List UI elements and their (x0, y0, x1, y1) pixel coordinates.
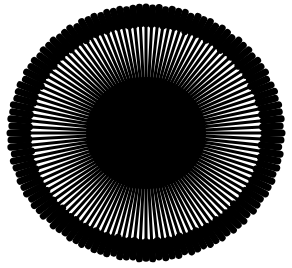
radial-bar-tip (11, 145, 29, 147)
radial-bar-tip (261, 105, 279, 109)
radial-bar-tip (133, 241, 135, 257)
radial-bar-tip (11, 139, 29, 140)
radial-bar-tip (157, 241, 159, 257)
radial-bar-tip (113, 11, 117, 27)
radial-bar-tip (11, 119, 29, 121)
radial-bar-tip (14, 151, 31, 154)
radial-bar-tip (12, 126, 30, 127)
radial-chart-container (0, 0, 292, 268)
radial-bar-tip (262, 112, 280, 115)
radial-bar-tip (120, 240, 123, 256)
radial-bar-tip (263, 119, 281, 121)
radial-bar-tip (13, 157, 31, 161)
radial-bar-tip (262, 151, 280, 154)
radial-bar-tip (139, 242, 140, 259)
radial-bar-tip (157, 8, 159, 25)
radial-bar-tip (169, 240, 172, 256)
radial-bar-tip (163, 10, 166, 26)
radial-bar-tip (174, 239, 178, 255)
radial-bar-tip (13, 105, 31, 109)
radial-bar-tip (260, 157, 277, 161)
radial-bar-tip (120, 9, 123, 25)
radial-bar-tip (126, 10, 129, 26)
radial-spoke-chart (0, 0, 292, 268)
radial-bar-tip (152, 8, 153, 25)
radial-bar-tip (152, 242, 153, 259)
radial-bar-tip (16, 163, 33, 168)
radial-bar-tip (163, 241, 166, 258)
radial-bar-tip (13, 112, 31, 115)
center-core-disc (86, 77, 206, 189)
radial-bar-tip (126, 241, 129, 257)
radial-bar-tip (263, 139, 281, 140)
radial-bar-tip (258, 98, 275, 103)
radial-bar-tip (133, 8, 135, 24)
radial-bar-tip (263, 126, 281, 127)
radial-bar-tip (169, 9, 172, 25)
radial-bar-tip (261, 145, 278, 147)
radial-bar-tip (139, 7, 140, 24)
